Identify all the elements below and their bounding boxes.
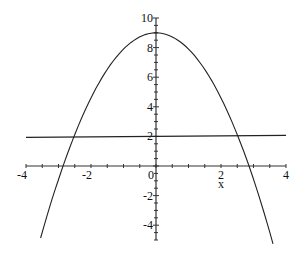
y-tick-label: 10 [141, 11, 153, 25]
y-tick-label: 8 [147, 41, 153, 55]
chart: -4-2024108642-2-4 x [0, 0, 308, 261]
x-tick-label: -4 [17, 168, 27, 182]
y-tick-label: -4 [143, 218, 153, 232]
x-tick-label: 4 [283, 168, 289, 182]
y-tick-label: 4 [147, 100, 153, 114]
x-tick-label: -2 [82, 168, 92, 182]
x-axis-label: x [218, 177, 224, 191]
y-tick-label: 6 [147, 70, 153, 84]
parabola-curve [41, 33, 273, 244]
y-tick-label: -2 [143, 189, 153, 203]
x-tick-label: 0 [148, 168, 154, 182]
tick-labels: -4-2024108642-2-4 [17, 11, 289, 232]
